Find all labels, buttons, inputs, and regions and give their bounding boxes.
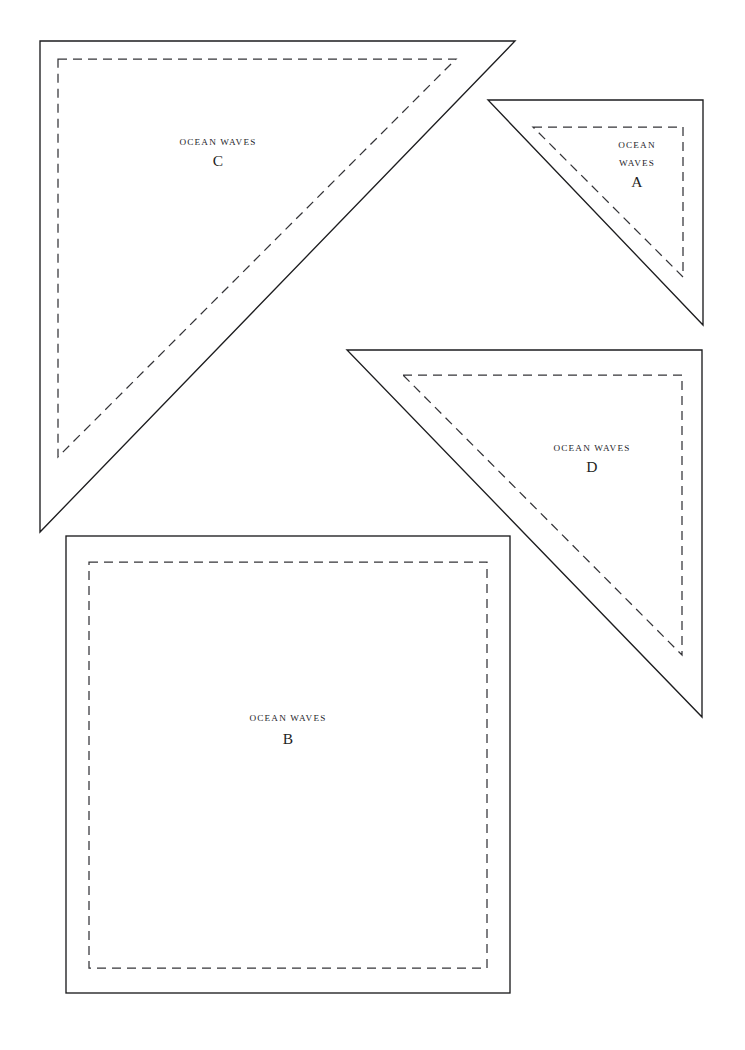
seam-line-d xyxy=(403,375,682,655)
piece-label-c-letter: C xyxy=(213,152,224,169)
seam-line-c xyxy=(58,59,456,457)
piece-label-b-letter: B xyxy=(283,730,294,747)
piece-label-b-title: OCEAN WAVES xyxy=(250,713,327,723)
piece-label-a-letter: A xyxy=(631,173,643,190)
piece-label-a-title-line2: WAVES xyxy=(619,158,655,168)
seam-line-b xyxy=(89,562,487,968)
template-sheet: OCEAN WAVES C OCEAN WAVES A OCEAN WAVES … xyxy=(0,0,745,1050)
cut-line-d xyxy=(347,350,702,717)
cut-line-b xyxy=(66,536,510,993)
piece-label-d-title: OCEAN WAVES xyxy=(554,443,631,453)
seam-line-a xyxy=(533,127,683,277)
template-piece-c[interactable]: OCEAN WAVES C xyxy=(40,41,515,532)
cut-line-a xyxy=(488,100,703,325)
template-piece-b[interactable]: OCEAN WAVES B xyxy=(66,536,510,993)
piece-label-c-title: OCEAN WAVES xyxy=(180,137,257,147)
piece-label-a-title-line1: OCEAN xyxy=(618,140,655,150)
cut-line-c xyxy=(40,41,515,532)
piece-label-d-letter: D xyxy=(586,458,598,475)
template-canvas: OCEAN WAVES C OCEAN WAVES A OCEAN WAVES … xyxy=(0,0,745,1050)
template-piece-d[interactable]: OCEAN WAVES D xyxy=(347,350,702,717)
template-piece-a[interactable]: OCEAN WAVES A xyxy=(488,100,703,325)
